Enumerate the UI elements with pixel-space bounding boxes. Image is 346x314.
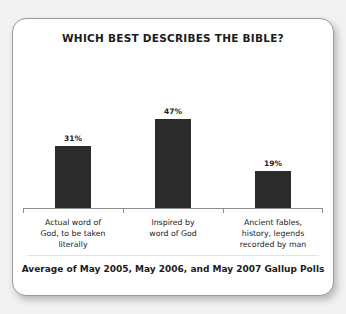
category-labels: Actual word of God, to be taken literall… bbox=[23, 217, 323, 263]
bar-value-label: 19% bbox=[223, 159, 323, 168]
bar-value-label: 47% bbox=[123, 107, 223, 116]
bar-value-label: 31% bbox=[23, 134, 123, 143]
category-label-line: literally bbox=[23, 239, 123, 250]
axis-tick-start bbox=[23, 209, 24, 213]
category-label-line: Actual word of bbox=[23, 217, 123, 228]
category-label-1: Inspired by word of God bbox=[123, 217, 223, 239]
plot-area: 31% 47% 19% bbox=[23, 55, 323, 209]
axis-tick-end bbox=[322, 209, 323, 213]
category-label-line: Inspired by bbox=[123, 217, 223, 228]
bar-rect[interactable] bbox=[55, 146, 91, 208]
axis-tick-1 bbox=[123, 209, 124, 213]
bar-rect[interactable] bbox=[255, 171, 291, 208]
category-label-0: Actual word of God, to be taken literall… bbox=[23, 217, 123, 250]
x-axis-line bbox=[23, 208, 323, 209]
category-label-line: God, to be taken bbox=[23, 228, 123, 239]
chart-title: WHICH BEST DESCRIBES THE BIBLE? bbox=[13, 32, 333, 44]
category-label-2: Ancient fables, history, legends recorde… bbox=[223, 217, 323, 250]
category-label-line: word of God bbox=[123, 228, 223, 239]
category-label-line: history, legends bbox=[223, 228, 323, 239]
axis-tick-2 bbox=[223, 209, 224, 213]
bar-rect[interactable] bbox=[155, 119, 191, 208]
category-label-line: recorded by man bbox=[223, 239, 323, 250]
source-annotation: Average of May 2005, May 2006, and May 2… bbox=[13, 264, 333, 274]
chart-card: WHICH BEST DESCRIBES THE BIBLE? 31% 47% … bbox=[12, 18, 334, 296]
category-label-line: Ancient fables, bbox=[223, 217, 323, 228]
footer-divider bbox=[27, 255, 319, 256]
